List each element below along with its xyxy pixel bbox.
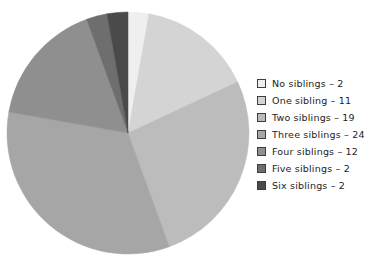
- legend-item-label: One sibling – 11: [272, 95, 351, 106]
- legend-item-label: Three siblings – 24: [272, 129, 365, 140]
- legend-item: Four siblings – 12: [257, 144, 381, 159]
- pie-plot-area: [0, 0, 250, 266]
- legend-item: Five siblings – 2: [257, 161, 381, 176]
- legend-swatch-icon: [257, 181, 266, 190]
- legend-item: Six siblings – 2: [257, 178, 381, 193]
- legend-swatch-icon: [257, 79, 266, 88]
- legend-item-label: No siblings – 2: [272, 78, 344, 89]
- pie-svg: [0, 0, 250, 266]
- pie-chart-figure: No siblings – 2One sibling – 11Two sibli…: [0, 0, 386, 266]
- legend-item: Two siblings – 19: [257, 110, 381, 125]
- legend-swatch-icon: [257, 113, 266, 122]
- legend-swatch-icon: [257, 147, 266, 156]
- legend-swatch-icon: [257, 96, 266, 105]
- legend-item: Three siblings – 24: [257, 127, 381, 142]
- chart-legend: No siblings – 2One sibling – 11Two sibli…: [257, 76, 381, 193]
- legend-item-label: Six siblings – 2: [272, 180, 345, 191]
- legend-swatch-icon: [257, 130, 266, 139]
- legend-item-label: Two siblings – 19: [272, 112, 355, 123]
- legend-item: One sibling – 11: [257, 93, 381, 108]
- legend-swatch-icon: [257, 164, 266, 173]
- legend-item-label: Four siblings – 12: [272, 146, 358, 157]
- legend-item-label: Five siblings – 2: [272, 163, 350, 174]
- legend-item: No siblings – 2: [257, 76, 381, 91]
